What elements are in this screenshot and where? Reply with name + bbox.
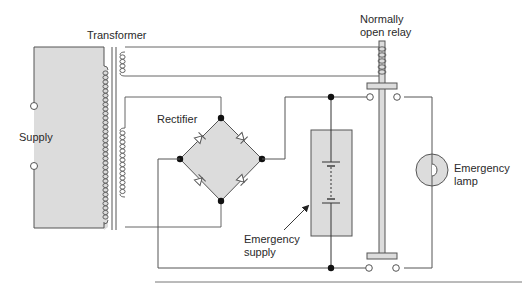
rectifier-bridge [177, 115, 265, 204]
relay-contact-bottom-right [393, 265, 400, 272]
relay-contact-bottom-left [366, 265, 373, 272]
label-relay-line1: Normally [360, 13, 403, 25]
transformer-core [112, 47, 116, 230]
emergency-lamp-icon [416, 154, 448, 186]
label-emergency-supply-line2: supply [244, 246, 276, 258]
label-emergency-lamp-line1: Emergency [454, 162, 510, 174]
label-relay-line2: open relay [360, 26, 411, 38]
relay-contact-top-left [367, 94, 374, 101]
relay-contact-top-right [394, 94, 401, 101]
label-emergency-lamp-line2: lamp [454, 175, 478, 187]
secondary-coil-top-icon [120, 47, 380, 76]
label-rectifier: Rectifier [157, 113, 197, 125]
emergency-supply-battery [311, 94, 352, 271]
label-transformer: Transformer [87, 29, 147, 41]
supply-terminal-bottom [31, 163, 38, 170]
pointer-arrow-icon [284, 206, 308, 230]
normally-open-relay [366, 41, 401, 271]
label-supply: Supply [19, 131, 53, 143]
supply-terminal-top [31, 103, 38, 110]
label-emergency-supply-line1: Emergency [244, 233, 300, 245]
